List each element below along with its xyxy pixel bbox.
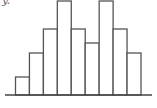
histogram-bar [29, 53, 43, 95]
histogram-bar [43, 29, 57, 95]
histogram-bar [16, 77, 30, 95]
histogram-chart [0, 0, 157, 108]
histogram-bar [57, 1, 71, 95]
histogram-bar [113, 29, 127, 95]
histogram-bar [99, 1, 113, 95]
histogram-bar [127, 53, 141, 95]
histogram-bar [85, 43, 99, 95]
histogram-bar [71, 29, 85, 95]
